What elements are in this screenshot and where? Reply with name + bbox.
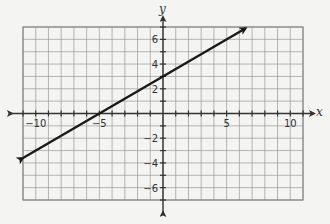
y-tick-label: −2 [143, 133, 158, 144]
y-tick-label: 2 [152, 84, 158, 95]
x-tick-label: 5 [223, 118, 229, 129]
y-tick-label: 6 [152, 34, 158, 45]
y-tick-label: 4 [152, 59, 158, 70]
coordinate-plane: −10−5510−6−4−2246 x y [0, 0, 330, 224]
y-tick-label: −6 [143, 183, 158, 194]
x-tick-label: −10 [25, 118, 46, 129]
x-tick-label: 10 [284, 118, 297, 129]
x-tick-label: −5 [92, 118, 107, 129]
y-axis-label: y [158, 2, 166, 16]
y-tick-label: −4 [143, 158, 158, 169]
x-axis-label: x [316, 105, 323, 119]
